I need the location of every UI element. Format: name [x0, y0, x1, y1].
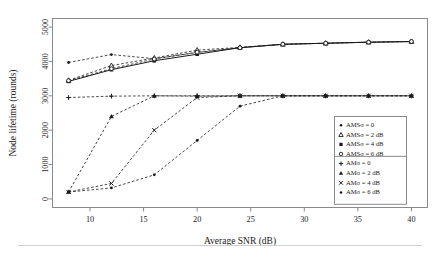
y-tick-label: 2000	[42, 122, 51, 138]
x-tick-label: 30	[300, 215, 308, 224]
data-point-dot	[324, 94, 327, 97]
data-point-dot	[110, 187, 113, 190]
data-point-circle-open	[410, 40, 414, 44]
data-point-dot	[410, 94, 413, 97]
data-point-dot	[281, 94, 284, 97]
legend: AMSσ = 0AMSσ = 2 dBAMSσ = 4 dBAMSσ = 6 d…	[335, 117, 407, 205]
data-point-dot	[153, 173, 156, 176]
x-tick-label: 40	[407, 215, 415, 224]
x-tick-label: 10	[86, 215, 94, 224]
y-tick-label: 5000	[42, 19, 51, 35]
figure-bottom-rule	[18, 245, 422, 246]
legend-label: AMSσ = 0	[346, 121, 375, 128]
data-point-circle-open	[281, 42, 285, 46]
data-point-circle-open	[367, 40, 371, 44]
x-tick-label: 15	[139, 215, 147, 224]
data-point-dot	[67, 61, 70, 64]
x-tick-label: 25	[247, 215, 255, 224]
series-0	[67, 40, 413, 64]
data-point-dot	[67, 191, 70, 194]
data-point-circle-open	[195, 50, 199, 54]
legend-label: AMσ = 4 dB	[346, 179, 380, 186]
data-point-dot	[110, 53, 113, 56]
data-point-plus	[109, 94, 114, 99]
y-tick-label: 3000	[42, 88, 51, 104]
legend-label: AMSσ = 6 dB	[346, 150, 384, 157]
legend-label: AMσ = 0	[346, 159, 371, 166]
data-point-dot	[196, 139, 199, 142]
series-3	[67, 40, 414, 83]
data-point-circle-open	[110, 67, 114, 71]
data-point-dot	[340, 124, 343, 127]
data-point-square-filled	[339, 143, 342, 146]
y-axis-title: Node lifetime (rounds)	[8, 69, 19, 156]
data-point-dot	[239, 105, 242, 108]
x-tick-label: 20	[193, 215, 201, 224]
data-point-cross	[152, 128, 156, 132]
legend-label: AMσ = 6 dB	[346, 188, 380, 195]
data-point-circle-open	[339, 152, 342, 155]
data-point-circle-open	[238, 46, 242, 50]
data-point-plus	[66, 95, 71, 100]
data-point-circle-open	[152, 57, 156, 61]
data-point-dot	[367, 94, 370, 97]
data-point-circle-open	[324, 41, 328, 45]
y-tick-label: 0	[42, 197, 51, 201]
legend-label: AMSσ = 4 dB	[346, 140, 384, 147]
legend-label: AMσ = 2 dB	[346, 169, 380, 176]
x-tick-label: 35	[354, 215, 362, 224]
data-point-circle-open	[67, 79, 71, 83]
node-lifetime-vs-snr-chart: 10152025303540010002000300040005000Avera…	[0, 0, 439, 263]
legend-label: AMSσ = 2 dB	[346, 131, 384, 138]
y-tick-label: 4000	[42, 53, 51, 69]
data-point-triangle-filled	[109, 114, 114, 118]
y-tick-label: 1000	[42, 156, 51, 172]
figure-container: 10152025303540010002000300040005000Avera…	[0, 0, 439, 263]
data-point-dot	[340, 191, 343, 194]
